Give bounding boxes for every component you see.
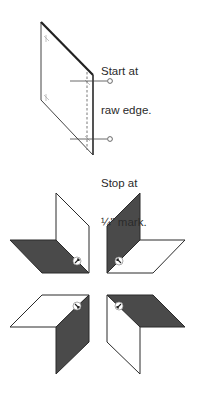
start-label-line1: Start at [101, 65, 152, 78]
star-piece-bottom-right [107, 295, 185, 374]
start-label: Start at raw edge. [101, 39, 152, 130]
star-piece-top-left [10, 193, 89, 273]
start-label-line2: raw edge. [101, 104, 152, 117]
stop-label: Stop at ¼" mark. [101, 151, 147, 242]
star-piece-bottom-left [10, 295, 89, 374]
quilt-diagram [0, 0, 197, 401]
stop-label-line2: ¼" mark. [101, 216, 147, 229]
stop-marker-circle [108, 137, 113, 142]
stop-label-line1: Stop at [101, 177, 147, 190]
